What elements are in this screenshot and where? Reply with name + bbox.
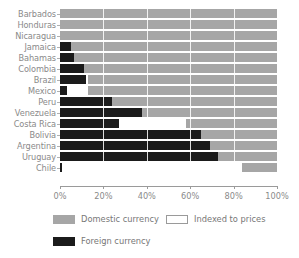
bar-row: Chile [0, 162, 299, 173]
x-axis-tick [277, 186, 278, 189]
stacked-bar [60, 31, 277, 40]
y-axis-label-argentina: Argentina [0, 141, 56, 150]
stacked-bar [60, 86, 277, 95]
y-axis-label-venezuela: Venezuela [0, 108, 56, 117]
y-axis-label-jamaica: Jamaica [0, 42, 56, 51]
bar-segment-foreign-currency [60, 97, 112, 106]
bar-segment-domestic-currency [112, 97, 277, 106]
stacked-bar [60, 163, 277, 172]
bar-row: Mexico [0, 85, 299, 96]
stacked-bar [60, 152, 277, 161]
bar-segment-domestic-currency [242, 163, 277, 172]
y-axis-label-bolivia: Bolivia [0, 130, 56, 139]
x-axis-tick [60, 186, 61, 189]
bar-segment-foreign-currency [60, 108, 142, 117]
bar-segment-indexed-to-prices [62, 163, 242, 172]
chart-legend: Domestic currency Indexed to prices Fore… [0, 210, 299, 258]
bar-segment-domestic-currency [210, 141, 277, 150]
bar-row: Peru [0, 96, 299, 107]
bar-segment-foreign-currency [60, 75, 86, 84]
bar-row: Brazil [0, 74, 299, 85]
bar-segment-domestic-currency [201, 130, 277, 139]
x-axis-tick [147, 186, 148, 189]
bar-row: Bahamas [0, 52, 299, 63]
bar-segment-domestic-currency [74, 53, 277, 62]
y-axis-label-barbados: Barbados [0, 9, 56, 18]
bar-row: Jamaica [0, 41, 299, 52]
stacked-bar [60, 130, 277, 139]
stacked-bar [60, 141, 277, 150]
x-axis-tick-label: 80% [224, 191, 242, 201]
bar-segment-foreign-currency [60, 119, 119, 128]
bar-segment-foreign-currency [60, 130, 201, 139]
legend-item-domestic-currency: Domestic currency [53, 214, 159, 224]
bar-segment-foreign-currency [60, 42, 71, 51]
x-axis-tick-label: 40% [138, 191, 156, 201]
plot-area: BarbadosHondurasNicaraguaJamaicaBahamasC… [0, 8, 299, 186]
stacked-bar [60, 75, 277, 84]
bar-row: Uruguay [0, 151, 299, 162]
bar-segment-indexed-to-prices [119, 119, 186, 128]
bar-segment-domestic-currency [71, 42, 277, 51]
bar-segment-domestic-currency [186, 119, 277, 128]
bar-segment-foreign-currency [60, 64, 84, 73]
y-axis-label-mexico: Mexico [0, 86, 56, 95]
legend-label-domestic: Domestic currency [81, 214, 159, 224]
x-axis-line [60, 186, 277, 187]
bar-segment-domestic-currency [88, 75, 277, 84]
bar-row: Venezuela [0, 107, 299, 118]
bar-segment-domestic-currency [142, 108, 277, 117]
y-axis-label-peru: Peru [0, 97, 56, 106]
bar-segment-domestic-currency [218, 152, 277, 161]
x-axis-tick [103, 186, 104, 189]
x-axis-tick-label: 0% [54, 191, 67, 201]
chart-container: BarbadosHondurasNicaraguaJamaicaBahamasC… [0, 0, 299, 258]
y-axis-label-uruguay: Uruguay [0, 152, 56, 161]
bar-rows: BarbadosHondurasNicaraguaJamaicaBahamasC… [0, 8, 299, 186]
bar-row: Bolivia [0, 129, 299, 140]
y-axis-label-honduras: Honduras [0, 20, 56, 29]
x-axis: 0%20%40%60%80%100% [0, 186, 299, 206]
stacked-bar [60, 97, 277, 106]
y-axis-label-chile: Chile [0, 163, 56, 172]
bar-row: Argentina [0, 140, 299, 151]
bar-segment-domestic-currency [60, 20, 277, 29]
stacked-bar [60, 119, 277, 128]
bar-row: Colombia [0, 63, 299, 74]
bar-row: Honduras [0, 19, 299, 30]
legend-label-indexed: Indexed to prices [194, 214, 266, 224]
x-axis-tick-label: 100% [265, 191, 288, 201]
bar-segment-domestic-currency [88, 86, 277, 95]
y-axis-label-nicaragua: Nicaragua [0, 31, 56, 40]
legend-swatch-domestic-icon [53, 215, 75, 224]
bar-segment-foreign-currency [60, 53, 74, 62]
bar-row: Costa Rica [0, 118, 299, 129]
legend-swatch-foreign-icon [53, 237, 75, 246]
bar-segment-domestic-currency [84, 64, 277, 73]
x-axis-tick-label: 60% [181, 191, 199, 201]
bar-segment-domestic-currency [60, 9, 277, 18]
legend-item-foreign-currency: Foreign currency [53, 236, 151, 246]
stacked-bar [60, 64, 277, 73]
legend-label-foreign: Foreign currency [81, 236, 151, 246]
bar-segment-foreign-currency [60, 152, 218, 161]
legend-item-indexed-to-prices: Indexed to prices [166, 214, 266, 224]
stacked-bar [60, 20, 277, 29]
stacked-bar [60, 42, 277, 51]
x-axis-tick-label: 20% [94, 191, 112, 201]
y-axis-label-costa-rica: Costa Rica [0, 119, 56, 128]
bar-segment-foreign-currency [60, 141, 210, 150]
x-axis-tick [190, 186, 191, 189]
stacked-bar [60, 53, 277, 62]
bar-segment-domestic-currency [60, 31, 277, 40]
bar-row: Barbados [0, 8, 299, 19]
y-axis-label-colombia: Colombia [0, 64, 56, 73]
legend-swatch-indexed-icon [166, 215, 188, 224]
stacked-bar [60, 9, 277, 18]
stacked-bar [60, 108, 277, 117]
bar-segment-indexed-to-prices [67, 86, 89, 95]
x-axis-tick [234, 186, 235, 189]
y-axis-label-brazil: Brazil [0, 75, 56, 84]
bar-row: Nicaragua [0, 30, 299, 41]
y-axis-label-bahamas: Bahamas [0, 53, 56, 62]
